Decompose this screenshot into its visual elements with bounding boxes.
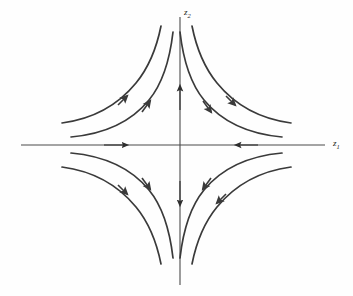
trajectory-upper-left-outer bbox=[62, 26, 161, 123]
z2-axis-label: z2 bbox=[184, 8, 191, 19]
axes-group bbox=[21, 17, 325, 285]
trajectory-lower-left-outer bbox=[62, 167, 161, 264]
z2-axis-label-subscript: 2 bbox=[188, 12, 191, 19]
z1-axis-label-subscript: 1 bbox=[337, 143, 340, 150]
z1-axis-label: z1 bbox=[333, 139, 340, 150]
trajectory-lower-left-inner bbox=[71, 153, 173, 258]
figure-canvas: z2 z1 bbox=[0, 0, 353, 296]
trajectory-arrows-group bbox=[118, 96, 235, 203]
trajectory-upper-left-inner bbox=[71, 32, 173, 137]
trajectory-upper-right-inner bbox=[180, 32, 282, 137]
trajectory-lower-right-inner bbox=[180, 153, 282, 258]
phase-portrait-svg bbox=[0, 0, 353, 296]
trajectory-upper-right-outer bbox=[192, 26, 291, 123]
trajectory-lower-right-outer bbox=[192, 167, 291, 264]
